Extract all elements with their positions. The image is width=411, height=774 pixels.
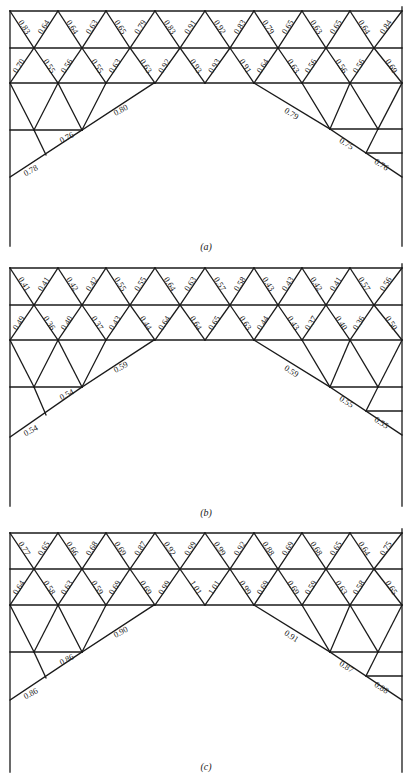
member-ratio-label: 0.56 [377, 275, 393, 293]
member-ratio-label: 0.58 [350, 578, 366, 596]
member-ratio-label: 0.63 [237, 314, 253, 332]
truss-figure: 0.830.640.640.630.650.790.830.910.920.83… [0, 0, 411, 774]
member-ratio-label: 0.66 [64, 539, 80, 557]
member-ratio-label: 0.92 [156, 57, 172, 75]
member-ratio-label: 0.64 [162, 275, 179, 294]
member-ratio-label: 0.37 [302, 314, 318, 332]
truss-member [10, 340, 34, 387]
member-ratio-label: 0.63 [106, 57, 122, 75]
truss-member [10, 605, 34, 652]
member-ratio-label: 0.58 [231, 275, 247, 293]
member-ratio-label: 0.99 [237, 578, 253, 596]
truss-member [366, 129, 378, 153]
member-ratio-label: 0.69 [106, 578, 122, 596]
truss-member [34, 340, 58, 387]
member-ratio-label: 0.37 [89, 314, 105, 332]
member-ratio-label: 0.56 [58, 57, 74, 75]
member-ratio-label: 0.75 [377, 539, 393, 557]
truss-member [366, 387, 378, 411]
member-ratio-label: 0.65 [206, 314, 222, 332]
truss-member [34, 83, 58, 130]
member-ratio-label: 0.64 [254, 56, 271, 75]
truss-member [302, 340, 330, 387]
member-ratio-label: 0.93 [188, 57, 204, 75]
right-knee-brace [254, 83, 330, 129]
member-ratio-label: 0.69 [279, 539, 295, 557]
member-ratio-label: 0.83 [16, 18, 32, 36]
truss-member [330, 340, 350, 387]
panel-a: 0.830.640.640.630.650.790.830.910.920.83… [10, 7, 402, 253]
member-ratio-label: 0.56 [302, 57, 318, 75]
truss-member [330, 605, 350, 652]
member-ratio-label: 0.40 [58, 314, 74, 332]
member-ratio-label: 0.65 [383, 578, 399, 596]
member-ratio-label: 0.58 [41, 578, 57, 596]
truss-member [302, 83, 330, 129]
member-ratio-label: 0.83 [231, 18, 247, 36]
left-brace-label: 0.86 [58, 651, 76, 667]
member-ratio-label: 0.64 [188, 314, 205, 333]
left-brace-label: 0.59 [112, 359, 130, 375]
member-ratio-label: 0.79 [132, 18, 148, 36]
truss-member [10, 83, 34, 130]
member-ratio-label: 0.84 [377, 17, 394, 36]
member-ratio-label: 0.41 [16, 275, 32, 293]
member-ratio-label: 0.49 [10, 314, 26, 332]
member-ratio-label: 0.65 [35, 539, 51, 557]
right-brace-label: 0.91 [283, 628, 301, 644]
member-ratio-label: 0.42 [64, 275, 80, 293]
member-ratio-label: 0.40 [333, 314, 349, 332]
truss-member [350, 340, 378, 387]
truss-member [34, 652, 46, 678]
member-ratio-label: 0.44 [138, 314, 155, 333]
member-ratio-label: 0.77 [16, 539, 32, 557]
member-ratio-label: 0.56 [350, 57, 366, 75]
member-ratio-label: 0.44 [254, 313, 271, 332]
member-ratio-label: 0.43 [279, 275, 295, 293]
member-ratio-label: 0.91 [237, 57, 253, 75]
right-brace-label: 0.79 [283, 105, 301, 121]
member-ratio-label: 0.64 [35, 17, 52, 36]
member-ratio-label: 0.65 [327, 539, 343, 557]
right-brace-label: 0.76 [373, 156, 391, 172]
right-brace-label: 0.55 [338, 393, 356, 409]
member-ratio-label: 0.69 [138, 578, 154, 596]
member-ratio-label: 0.55 [132, 275, 148, 293]
truss-member [366, 652, 378, 676]
member-ratio-label: 0.64 [10, 578, 27, 597]
member-ratio-label: 0.36 [350, 314, 366, 332]
member-ratio-label: 0.63 [182, 275, 198, 293]
member-ratio-label: 0.57 [212, 275, 228, 293]
member-ratio-label: 0.69 [254, 578, 270, 596]
member-ratio-label: 0.99 [156, 578, 172, 596]
truss-member [58, 340, 82, 387]
member-ratio-label: 0.41 [327, 275, 343, 293]
truss-member [34, 387, 46, 415]
member-ratio-label: 0.99 [212, 539, 228, 557]
right-brace-label: 0.55 [373, 414, 391, 430]
member-ratio-label: 0.55 [112, 275, 128, 293]
member-ratio-label: 0.55 [89, 57, 105, 75]
member-ratio-label: 0.99 [182, 539, 198, 557]
member-ratio-label: 0.65 [279, 18, 295, 36]
member-ratio-label: 0.63 [138, 57, 154, 75]
left-brace-label: 0.80 [112, 102, 130, 118]
member-ratio-label: 0.69 [285, 578, 301, 596]
right-knee-brace [254, 340, 330, 387]
member-ratio-label: 0.42 [308, 275, 324, 293]
member-ratio-label: 0.43 [260, 275, 276, 293]
panel-c: 0.770.650.660.680.690.870.920.990.990.92… [10, 529, 402, 773]
member-ratio-label: 0.41 [35, 275, 51, 293]
member-ratio-label: 0.68 [83, 539, 99, 557]
member-ratio-label: 0.43 [285, 314, 301, 332]
left-brace-label: 0.90 [112, 624, 130, 640]
left-brace-label: 0.76 [58, 129, 76, 145]
truss-member [350, 83, 378, 129]
truss-member [82, 340, 106, 387]
member-ratio-label: 0.36 [41, 314, 57, 332]
right-knee-brace [254, 605, 330, 652]
truss-member [378, 605, 402, 652]
member-ratio-label: 0.92 [231, 539, 247, 557]
member-ratio-label: 0.92 [162, 539, 178, 557]
truss-member [330, 83, 350, 129]
